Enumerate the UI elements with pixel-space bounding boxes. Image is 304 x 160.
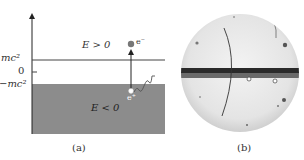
label-negative-energy: E < 0 [91,102,119,113]
label-neg-mc2: −mc² [0,78,26,89]
electron-dot-icon [128,41,134,47]
caption-a: (a) [72,142,86,153]
label-zero: 0 [18,65,24,76]
lead-plate-shadow [170,73,304,78]
cloud-chamber-photo: (b) [170,0,304,160]
label-positive-energy: E > 0 [82,39,110,50]
caption-b: (b) [237,142,251,153]
label-mc2: mc² [1,52,20,63]
dirac-sea-diagram: mc² 0 −mc² E > 0 E < 0 e⁻ e⁺ (a) [0,0,170,160]
label-electron: e⁻ [136,37,145,46]
label-positron: e⁺ [127,93,136,102]
lead-plate [170,68,304,73]
cloud-chamber-image [170,0,304,160]
